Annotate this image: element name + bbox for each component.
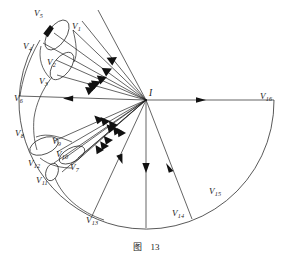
label-V15-sub: 15 bbox=[215, 190, 221, 197]
label-V8-sub: 8 bbox=[21, 132, 24, 139]
label-V15: V15 bbox=[209, 187, 221, 196]
label-V7: V7 bbox=[70, 163, 79, 172]
label-V16-text: V bbox=[260, 91, 266, 101]
vector-line-V6 bbox=[19, 96, 146, 100]
arrowhead-V7 bbox=[117, 128, 126, 137]
label-V7-sub: 7 bbox=[76, 166, 79, 173]
label-V13-text: V bbox=[86, 215, 92, 225]
label-V4: V4 bbox=[23, 42, 32, 51]
label-V4-sub: 4 bbox=[29, 45, 32, 52]
label-V14-sub: 14 bbox=[178, 212, 184, 219]
arrowhead-V2 bbox=[102, 68, 112, 77]
label-V16-sub: 16 bbox=[266, 95, 272, 102]
label-V8: V8 bbox=[15, 129, 24, 138]
arrowhead-V1 bbox=[107, 57, 117, 66]
label-V6: V6 bbox=[14, 94, 23, 103]
figure-container: I V1 V2 V3 V4 V5 V6 V7 V8 V9 V10 V11 V12… bbox=[0, 0, 292, 278]
label-V9: V9 bbox=[52, 137, 61, 146]
label-V16: V16 bbox=[260, 92, 272, 101]
label-V3: V3 bbox=[39, 77, 48, 86]
label-V11: V11 bbox=[36, 176, 47, 185]
label-V8-text: V bbox=[15, 128, 21, 138]
label-V13: V13 bbox=[86, 216, 98, 225]
label-V12-sub: 12 bbox=[34, 162, 40, 169]
loop-hull-lower2 bbox=[55, 178, 104, 220]
arrowhead-cluster-1 bbox=[104, 136, 113, 145]
arrowhead-V16 bbox=[196, 97, 206, 103]
label-V1: V1 bbox=[72, 22, 81, 31]
label-V5: V5 bbox=[34, 9, 43, 18]
arrowhead-V3b bbox=[85, 87, 95, 95]
label-V10: V10 bbox=[56, 150, 68, 159]
label-V14-text: V bbox=[172, 208, 178, 218]
vector-line-V15 bbox=[146, 100, 192, 219]
long-vector-arrowheads bbox=[63, 96, 206, 174]
label-V4-text: V bbox=[23, 41, 29, 51]
label-V1-sub: 1 bbox=[78, 25, 81, 32]
label-V12-text: V bbox=[28, 158, 34, 168]
vector-diagram-svg bbox=[0, 0, 292, 278]
long-vectors-group bbox=[19, 96, 274, 228]
arrowhead-V6 bbox=[63, 96, 73, 102]
center-point-I bbox=[145, 99, 147, 101]
lower-fan-group bbox=[54, 100, 146, 172]
label-V13-sub: 13 bbox=[92, 219, 98, 226]
label-V5-sub: 5 bbox=[40, 12, 43, 19]
center-label-I: I bbox=[149, 89, 152, 99]
label-V11-sub: 11 bbox=[42, 179, 48, 186]
label-V2-sub: 2 bbox=[53, 61, 56, 68]
figure-caption: 图13 bbox=[0, 243, 292, 252]
label-V7-text: V bbox=[70, 162, 76, 172]
label-V10-sub: 10 bbox=[62, 153, 68, 160]
label-V10-text: V bbox=[56, 149, 62, 159]
loop-hull-lower bbox=[34, 118, 37, 150]
label-V14: V14 bbox=[172, 209, 184, 218]
label-V3-text: V bbox=[39, 76, 45, 86]
label-V15-text: V bbox=[209, 186, 215, 196]
arrowhead-V14 bbox=[142, 163, 149, 173]
label-V3-sub: 3 bbox=[45, 80, 48, 87]
label-V11-text: V bbox=[36, 175, 42, 185]
label-V2-text: V bbox=[47, 57, 53, 67]
label-V6-text: V bbox=[14, 93, 20, 103]
label-V2: V2 bbox=[47, 58, 56, 67]
label-V9-text: V bbox=[52, 136, 58, 146]
label-V9-sub: 9 bbox=[58, 140, 61, 147]
label-V12: V12 bbox=[28, 159, 40, 168]
loop-tube-upper-right bbox=[73, 30, 76, 62]
label-V1-text: V bbox=[72, 21, 78, 31]
caption-number: 13 bbox=[151, 242, 160, 252]
caption-prefix: 图 bbox=[133, 242, 142, 252]
label-V5-text: V bbox=[34, 8, 40, 18]
label-V6-sub: 6 bbox=[20, 97, 23, 104]
